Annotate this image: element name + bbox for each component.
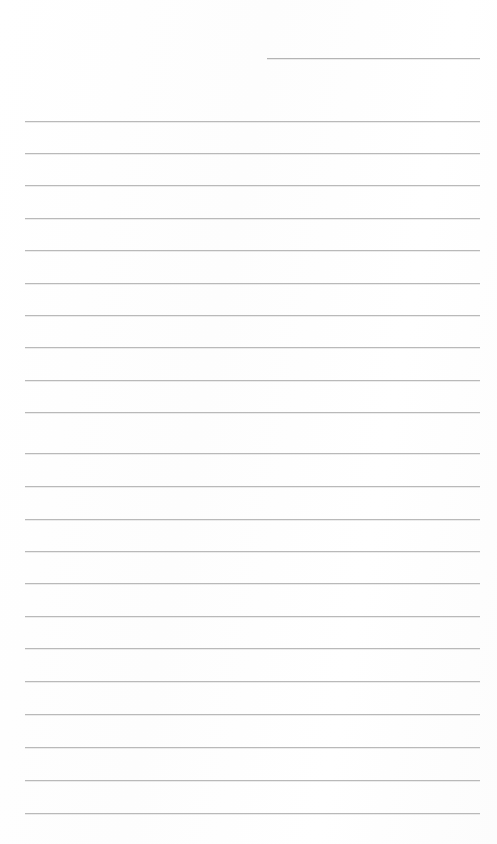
notebook-page bbox=[0, 0, 497, 844]
handwriting-layer bbox=[0, 0, 497, 844]
